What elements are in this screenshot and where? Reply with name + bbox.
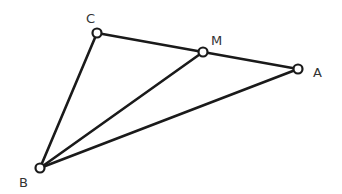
label-a: A: [313, 65, 322, 80]
segment-ma: [203, 52, 298, 69]
geometry-diagram: CMAB: [0, 0, 342, 194]
diagram-canvas: CMAB: [0, 0, 342, 194]
label-c: C: [86, 11, 95, 26]
point-a: [294, 65, 303, 74]
point-c: [93, 29, 102, 38]
segment-cm: [97, 33, 203, 52]
labels-group: CMAB: [19, 11, 322, 190]
label-b: B: [19, 175, 28, 190]
point-m: [199, 48, 208, 57]
point-b: [36, 164, 45, 173]
segment-ba: [40, 69, 298, 168]
segments-group: [40, 33, 298, 168]
points-group: [36, 29, 303, 173]
label-m: M: [211, 33, 222, 48]
